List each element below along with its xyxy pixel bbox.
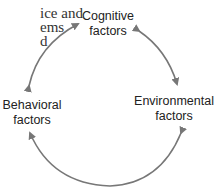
node-environmental-line1: Environmental — [133, 94, 215, 109]
node-behavioral-line2: factors — [0, 113, 64, 128]
arrow-behavioral-cognitive — [29, 24, 78, 86]
node-cognitive: Cognitive factors — [78, 9, 138, 39]
node-environmental-line2: factors — [133, 109, 215, 124]
node-behavioral: Behavioral factors — [0, 98, 64, 128]
arrow-cognitive-environmental — [139, 31, 177, 84]
node-cognitive-line1: Cognitive — [78, 9, 138, 24]
node-environmental: Environmental factors — [133, 94, 215, 124]
node-cognitive-line2: factors — [78, 24, 138, 39]
node-behavioral-line1: Behavioral — [0, 98, 64, 113]
arrow-environmental-behavioral — [30, 133, 181, 186]
